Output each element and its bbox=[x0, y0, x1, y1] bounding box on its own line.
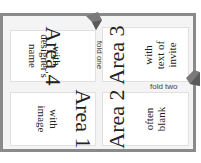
area-2-title: Area 2 bbox=[102, 92, 132, 146]
area-3-title: Area 3 bbox=[102, 27, 132, 82]
area-1-title: Area 1 bbox=[70, 92, 96, 146]
fold-two-arrow-icon bbox=[184, 68, 201, 90]
area-3-text: with text of invite bbox=[135, 27, 185, 82]
area-4-text: with designer's name bbox=[22, 30, 68, 82]
fold-one-arrow-icon bbox=[84, 10, 104, 32]
fold-two-label: fold two bbox=[150, 82, 178, 91]
fold-one-label: fold one bbox=[95, 41, 104, 69]
fold-one-label-box: fold one bbox=[93, 28, 105, 82]
area-1-text: with image bbox=[28, 92, 68, 146]
area-2-text: often blank bbox=[135, 92, 175, 146]
